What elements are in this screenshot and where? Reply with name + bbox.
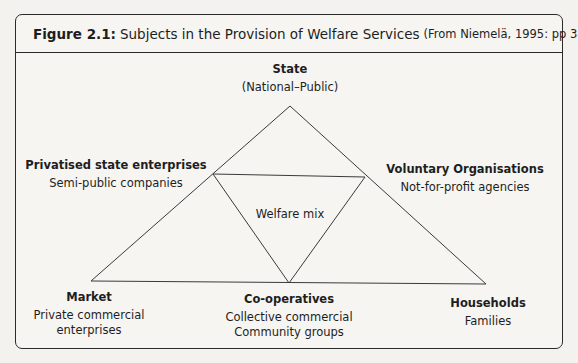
inner-triangle — [213, 174, 365, 283]
node-privatised-subtitle: Semi-public companies — [25, 176, 206, 191]
node-market-line-1: Private commercial — [34, 308, 145, 323]
node-state-title: State — [242, 62, 339, 77]
outer-triangle — [91, 106, 486, 284]
node-voluntary-title: Voluntary Organisations — [386, 162, 543, 177]
node-voluntary-organisations: Voluntary Organisations Not-for-profit a… — [386, 162, 543, 195]
node-market-line-2: enterprises — [34, 323, 145, 338]
node-cooperatives-line-1: Collective commercial — [225, 310, 352, 325]
node-market-title: Market — [34, 290, 145, 305]
node-households-line-1: Families — [450, 314, 525, 329]
node-cooperatives-title: Co-operatives — [225, 292, 352, 307]
node-co-operatives: Co-operatives Collective commercial Comm… — [225, 292, 352, 340]
node-privatised-title: Privatised state enterprises — [25, 158, 206, 173]
node-state: State (National–Public) — [242, 62, 339, 95]
node-privatised-state-enterprises: Privatised state enterprises Semi-public… — [25, 158, 206, 191]
node-voluntary-subtitle: Not-for-profit agencies — [386, 180, 543, 195]
node-cooperatives-line-2: Community groups — [225, 325, 352, 340]
node-state-subtitle: (National–Public) — [242, 80, 339, 95]
node-households: Households Families — [450, 296, 525, 329]
welfare-mix-label: Welfare mix — [256, 207, 324, 221]
node-households-title: Households — [450, 296, 525, 311]
node-market: Market Private commercial enterprises — [34, 290, 145, 338]
